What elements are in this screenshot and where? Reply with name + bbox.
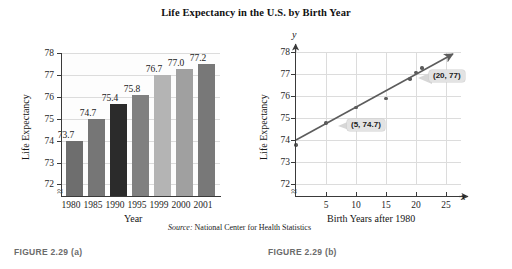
sc-xtick-mark-10 bbox=[356, 192, 357, 197]
sc-ytick-78: 78 bbox=[262, 47, 290, 57]
figure-page: Life Expectancy in the U.S. by Birth Yea… bbox=[0, 0, 512, 269]
scatter-x-axis-label: Birth Years after 1980 bbox=[327, 213, 415, 224]
bar-x-axis-line bbox=[61, 196, 221, 197]
sc-xtick-10: 10 bbox=[341, 200, 371, 210]
sc-ytick-mark-78 bbox=[291, 52, 296, 53]
bar-ytick-77: 77 bbox=[24, 70, 54, 80]
figure-caption-b: FIGURE 2.29 (b) bbox=[268, 247, 337, 257]
bar-ytick-mark-78 bbox=[57, 53, 62, 54]
bar-1999[interactable] bbox=[154, 75, 171, 196]
bar-ytick-mark-73 bbox=[57, 163, 62, 164]
bar-1980[interactable] bbox=[66, 141, 83, 196]
source-note: Source: National Center for Health Stati… bbox=[168, 223, 311, 232]
bar-2000[interactable] bbox=[176, 69, 193, 196]
bar-ytick-78: 78 bbox=[24, 48, 54, 58]
callout-point-5[interactable]: (5, 74.7) bbox=[347, 119, 385, 131]
bar-2001[interactable] bbox=[198, 64, 215, 196]
bar-ytick-72: 72 bbox=[24, 179, 54, 189]
figure-caption-a: FIGURE 2.29 (a) bbox=[14, 247, 82, 257]
figure-caption-a-sub: (a) bbox=[71, 247, 82, 257]
bar-value-2001: 77.2 bbox=[181, 53, 215, 63]
scatter-y-axis-label: Life Expectancy bbox=[258, 94, 269, 160]
scatter-y-axis-line bbox=[295, 46, 296, 197]
bar-value-1985: 74.7 bbox=[71, 108, 105, 118]
source-prefix: Source: bbox=[168, 223, 193, 232]
sc-xtick-mark-20 bbox=[416, 192, 417, 197]
figure-caption-b-sub: (b) bbox=[325, 247, 337, 257]
bar-1995[interactable] bbox=[132, 95, 149, 196]
sc-xtick-5: 5 bbox=[311, 200, 341, 210]
sc-xtick-25: 25 bbox=[431, 200, 461, 210]
bar-ytick-mark-75 bbox=[57, 119, 62, 120]
sc-ytick-mark-76 bbox=[291, 96, 296, 97]
callout-point-20[interactable]: (20, 77) bbox=[429, 70, 465, 82]
bar-series bbox=[62, 53, 220, 196]
sc-ytick-mark-75 bbox=[291, 118, 296, 119]
bar-axis-break-icon: ≈ bbox=[57, 186, 65, 196]
bar-value-1990: 75.4 bbox=[93, 93, 127, 103]
sc-xtick-mark-15 bbox=[386, 192, 387, 197]
sc-ytick-72: 72 bbox=[262, 179, 290, 189]
bar-x-axis-label: Year bbox=[124, 213, 142, 224]
sc-ytick-77: 77 bbox=[262, 69, 290, 79]
bar-ytick-mark-77 bbox=[57, 75, 62, 76]
sc-ytick-mark-73 bbox=[291, 162, 296, 163]
figure-caption-a-label: FIGURE 2.29 bbox=[14, 247, 68, 257]
bar-y-axis-label: Life Expectancy bbox=[20, 94, 31, 160]
source-text: National Center for Health Statistics bbox=[193, 223, 311, 232]
sc-xtick-mark-5 bbox=[326, 192, 327, 197]
sc-xtick-15: 15 bbox=[371, 200, 401, 210]
sc-xtick-20: 20 bbox=[401, 200, 431, 210]
bar-1985[interactable] bbox=[88, 119, 105, 196]
bar-value-1980: 73.7 bbox=[49, 130, 83, 140]
scatter-y-axis-letter: y bbox=[292, 29, 296, 40]
bar-value-1995: 75.8 bbox=[115, 84, 149, 94]
sc-ytick-mark-74 bbox=[291, 140, 296, 141]
bar-xtick-2001: 2001 bbox=[186, 200, 220, 210]
scatter-x-axis-letter: x bbox=[461, 191, 465, 202]
bar-ytick-mark-74 bbox=[57, 141, 62, 142]
bar-ytick-mark-76 bbox=[57, 97, 62, 98]
sc-xtick-mark-25 bbox=[446, 192, 447, 197]
figure-caption-b-label: FIGURE 2.29 bbox=[268, 247, 322, 257]
scatter-x-axis-line bbox=[295, 196, 467, 197]
bar-1990[interactable] bbox=[110, 104, 127, 196]
sc-ytick-mark-77 bbox=[291, 74, 296, 75]
scatter-axis-break-icon: ≈ bbox=[291, 186, 299, 196]
